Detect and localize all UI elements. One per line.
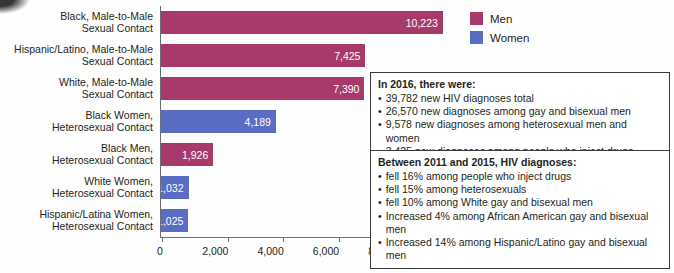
bar-value-label: 10,223 — [406, 17, 438, 29]
category-label: Black, Male-to-MaleSexual Contact — [0, 6, 157, 39]
category-label-line1: Hispanic/Latino, Male-to-Male — [14, 44, 153, 56]
tick-mark — [339, 237, 340, 242]
callout-bullet: •Increased 4% among African American gay… — [378, 210, 662, 236]
x-tick: 6,000 — [326, 237, 352, 257]
chart-legend: MenWomen — [470, 12, 529, 50]
women-swatch — [470, 31, 483, 44]
bullet-icon: • — [378, 118, 382, 144]
men-swatch — [470, 12, 483, 25]
x-tick-label: 0 — [157, 245, 163, 257]
bullet-icon: • — [378, 196, 382, 209]
category-label-line2: Heterosexual Contact — [52, 122, 153, 134]
callout-bullet-text: Increased 4% among African American gay … — [386, 210, 662, 236]
category-label-line2: Heterosexual Contact — [52, 188, 153, 200]
category-label-line1: White Women, — [84, 176, 153, 188]
callout-bullet-text: fell 10% among White gay and bisexual me… — [386, 196, 593, 209]
category-label: Black Women,Heterosexual Contact — [0, 105, 157, 138]
category-label-line1: Black Women, — [86, 110, 154, 122]
bar-men[interactable]: 7,390 — [160, 77, 364, 100]
callout-bullet: •fell 15% among heterosexuals — [378, 183, 662, 196]
callout-bullet-text: 9,578 new diagnoses among heterosexual m… — [386, 118, 662, 144]
bullet-icon: • — [378, 210, 382, 236]
category-label-line2: Sexual Contact — [82, 89, 153, 101]
category-label: White Women,Heterosexual Contact — [0, 171, 157, 204]
tick-mark — [228, 237, 229, 242]
category-label-line2: Heterosexual Contact — [52, 155, 153, 167]
bar-men[interactable]: 1,926 — [160, 143, 213, 166]
category-label-line1: Hispanic/Latina Women, — [39, 209, 153, 221]
bar-men[interactable]: 10,223 — [160, 11, 443, 34]
callout-title: In 2016, there were: — [378, 78, 662, 91]
bar-value-label: 4,189 — [245, 116, 271, 128]
category-label: Hispanic/Latina Women,Heterosexual Conta… — [0, 204, 157, 237]
callout-bullet-text: 26,570 new diagnoses among gay and bisex… — [386, 105, 631, 118]
category-axis-labels: Black, Male-to-MaleSexual ContactHispani… — [0, 6, 157, 237]
bullet-icon: • — [378, 183, 382, 196]
callout-title: Between 2011 and 2015, HIV diagnoses: — [378, 156, 662, 169]
bar-value-label: 7,390 — [333, 83, 359, 95]
x-tick: 0 — [160, 237, 166, 257]
category-label-line1: White, Male-to-Male — [59, 77, 153, 89]
category-label-line2: Sexual Contact — [82, 56, 153, 68]
legend-label: Women — [490, 32, 529, 44]
bullet-icon: • — [378, 236, 382, 262]
callout-item-list: •39,782 new HIV diagnoses total•26,570 n… — [378, 92, 662, 158]
bar-men[interactable]: 7,425 — [160, 44, 365, 67]
bar-row: 10,223 — [160, 6, 492, 39]
tick-mark — [162, 237, 163, 242]
x-tick-label: 2,000 — [202, 245, 228, 257]
callout-bullet-text: 39,782 new HIV diagnoses total — [386, 92, 534, 105]
callout-bullet: •fell 10% among White gay and bisexual m… — [378, 196, 662, 209]
callout-bullet-text: Increased 14% among Hispanic/Latino gay … — [386, 236, 662, 262]
category-label-line2: Sexual Contact — [82, 23, 153, 35]
bullet-icon: • — [378, 92, 382, 105]
legend-label: Men — [490, 13, 512, 25]
x-tick-label: 4,000 — [258, 245, 284, 257]
legend-item[interactable]: Women — [470, 31, 529, 44]
bar-value-label: 1,025 — [157, 215, 183, 227]
bar-row: 7,425 — [160, 39, 492, 72]
category-label: White, Male-to-MaleSexual Contact — [0, 72, 157, 105]
bar-women[interactable]: 4,189 — [160, 110, 276, 133]
callout-bullet: •fell 16% among people who inject drugs — [378, 170, 662, 183]
bullet-icon: • — [378, 170, 382, 183]
callout-bullet-text: fell 16% among people who inject drugs — [386, 170, 572, 183]
bar-value-label: 1,032 — [157, 182, 183, 194]
callout-bullet: •39,782 new HIV diagnoses total — [378, 92, 662, 105]
category-label-line1: Black Men, — [101, 143, 153, 155]
callout-bullet: •26,570 new diagnoses among gay and bise… — [378, 105, 662, 118]
callout-bullet: •9,578 new diagnoses among heterosexual … — [378, 118, 662, 144]
callout-box-trend-stats: Between 2011 and 2015, HIV diagnoses: •f… — [370, 150, 670, 269]
x-tick-label: 6,000 — [313, 245, 339, 257]
category-label-line2: Heterosexual Contact — [52, 221, 153, 233]
x-tick: 2,000 — [215, 237, 241, 257]
callout-item-list: •fell 16% among people who inject drugs•… — [378, 170, 662, 262]
bar-value-label: 1,926 — [182, 149, 208, 161]
legend-item[interactable]: Men — [470, 12, 529, 25]
bullet-icon: • — [378, 105, 382, 118]
bar-women[interactable]: 1,025 — [160, 209, 188, 232]
category-label: Hispanic/Latino, Male-to-MaleSexual Cont… — [0, 39, 157, 72]
callout-bullet: •Increased 14% among Hispanic/Latino gay… — [378, 236, 662, 262]
bar-value-label: 7,425 — [334, 50, 360, 62]
category-label-line1: Black, Male-to-Male — [60, 11, 153, 23]
bar-women[interactable]: 1,032 — [160, 176, 189, 199]
tick-mark — [283, 237, 284, 242]
y-axis-line — [160, 6, 161, 237]
category-label: Black Men,Heterosexual Contact — [0, 138, 157, 171]
callout-bullet-text: fell 15% among heterosexuals — [386, 183, 527, 196]
x-tick: 4,000 — [271, 237, 297, 257]
